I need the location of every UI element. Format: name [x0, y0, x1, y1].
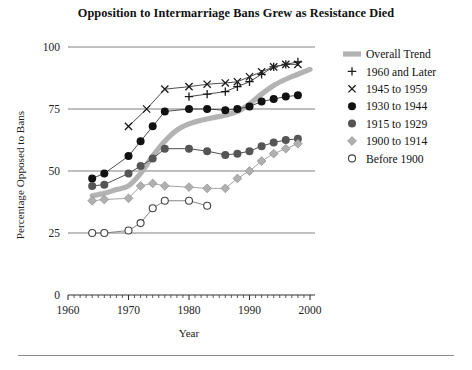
y-tick-label-0: 0: [54, 289, 60, 301]
x-tick-label-1980: 1980: [178, 304, 201, 316]
data-point-marker: [88, 182, 96, 190]
data-point-marker: [89, 230, 96, 237]
data-point-marker: [270, 95, 278, 103]
y-tick-label-50: 50: [49, 165, 61, 177]
data-point-marker: [294, 91, 302, 99]
data-point-marker: [185, 183, 194, 192]
data-point-marker: [185, 145, 193, 153]
legend-label: 1960 and Later: [366, 66, 436, 79]
data-point-marker: [203, 90, 211, 98]
bottom-horizontal-rule: [18, 355, 454, 356]
data-point-marker: [161, 145, 169, 153]
data-point-marker: [233, 105, 241, 113]
data-point-marker: [269, 149, 278, 158]
series-before-1900: [89, 197, 211, 236]
gray-circle-marker-icon: [348, 120, 356, 128]
data-point-marker: [125, 123, 132, 130]
series-line: [92, 144, 298, 201]
data-point-marker: [221, 106, 229, 114]
data-point-marker: [221, 87, 229, 95]
data-point-marker: [125, 152, 133, 160]
light-diamond-marker-icon: [348, 137, 357, 146]
legend-item[interactable]: Before 1900: [349, 153, 424, 166]
data-point-marker: [100, 181, 108, 189]
data-point-marker: [148, 179, 157, 188]
data-point-marker: [203, 105, 211, 113]
legend-label: 1900 to 1914: [366, 135, 427, 148]
data-point-marker: [233, 82, 241, 90]
series-overall-trend: [92, 69, 310, 195]
series-line: [92, 95, 298, 178]
chart-legend: Overall Trend1960 and Later1945 to 19591…: [343, 48, 436, 165]
legend-label: Before 1900: [366, 153, 424, 166]
data-point-marker: [282, 93, 290, 101]
open-circle-marker-icon: [349, 155, 356, 162]
x-axis-title: Year: [179, 327, 200, 339]
data-point-marker: [100, 169, 108, 177]
y-tick-label-25: 25: [49, 227, 61, 239]
y-axis-title: Percentage Opposed to Bans: [14, 111, 26, 239]
data-point-marker: [246, 147, 254, 155]
legend-item[interactable]: 1960 and Later: [348, 66, 437, 79]
y-tick-label-100: 100: [43, 41, 61, 53]
data-point-marker: [233, 150, 241, 158]
data-point-marker: [149, 122, 157, 130]
legend-item[interactable]: Overall Trend: [343, 48, 431, 61]
data-point-marker: [161, 197, 168, 204]
x-tick-label-2000: 2000: [299, 304, 322, 316]
data-point-marker: [149, 155, 157, 163]
black-circle-marker-icon: [348, 102, 356, 110]
x-tick-label-1990: 1990: [238, 304, 261, 316]
data-point-marker: [246, 103, 254, 111]
plus-marker-icon: [348, 67, 356, 75]
data-point-marker: [101, 230, 108, 237]
cross-marker-icon: [348, 85, 355, 92]
legend-label: Overall Trend: [366, 48, 431, 61]
legend-label: 1930 to 1944: [366, 100, 427, 113]
series-line: [92, 139, 298, 186]
data-point-marker: [125, 227, 132, 234]
data-point-marker: [185, 92, 193, 100]
data-point-marker: [258, 98, 266, 106]
data-point-marker: [185, 105, 193, 113]
legend-item[interactable]: 1945 to 1959: [348, 83, 427, 96]
data-point-marker: [221, 151, 229, 159]
x-tick-label-1960: 1960: [57, 304, 80, 316]
y-tick-label-75: 75: [49, 103, 61, 115]
legend-item[interactable]: 1915 to 1929: [348, 118, 427, 131]
data-point-marker: [88, 174, 96, 182]
data-point-marker: [137, 162, 145, 170]
data-point-marker: [203, 184, 212, 193]
legend-item[interactable]: 1930 to 1944: [348, 100, 427, 113]
series-1930-to-1944: [88, 91, 302, 182]
data-point-marker: [186, 197, 193, 204]
data-point-marker: [149, 205, 156, 212]
data-point-marker: [270, 138, 278, 146]
data-point-marker: [137, 220, 144, 227]
data-point-marker: [125, 169, 133, 177]
data-point-marker: [203, 147, 211, 155]
data-point-marker: [245, 78, 253, 86]
data-point-marker: [161, 107, 169, 115]
data-point-marker: [258, 142, 266, 150]
legend-label: 1915 to 1929: [366, 118, 427, 131]
chart-figure: Opposition to Intermarriage Bans Grew as…: [0, 0, 472, 370]
data-point-marker: [282, 136, 290, 144]
legend-item[interactable]: 1900 to 1914: [348, 135, 428, 148]
data-point-marker: [281, 144, 290, 153]
trend-line: [92, 69, 310, 195]
data-point-marker: [160, 181, 169, 190]
data-point-marker: [204, 202, 211, 209]
legend-label: 1945 to 1959: [366, 83, 427, 96]
chart-plot-area: 0255075100Percentage Opposed to Bans1960…: [0, 0, 472, 370]
x-tick-label-1970: 1970: [117, 304, 140, 316]
data-point-marker: [137, 137, 145, 145]
